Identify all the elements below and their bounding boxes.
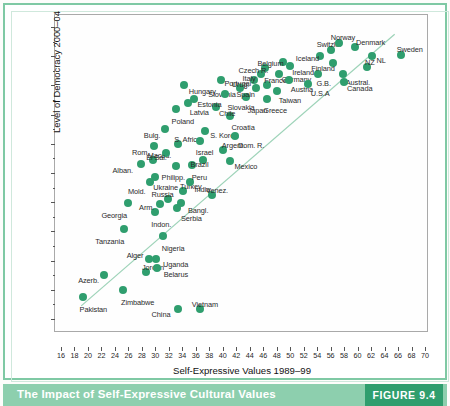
- data-point: [263, 95, 271, 103]
- y-tick-mark-minor: [53, 188, 56, 189]
- y-tick-mark-minor: [53, 158, 56, 159]
- x-tick-label: 48: [273, 351, 281, 360]
- x-tick-label: 28: [138, 351, 146, 360]
- data-point-label: Serbia: [181, 215, 202, 223]
- x-tick-mark: [88, 347, 89, 351]
- data-point-label: Alban.: [113, 167, 133, 175]
- data-point-label: Canada: [347, 85, 372, 93]
- x-tick-mark: [358, 347, 359, 351]
- data-point-label: Uganda: [163, 261, 188, 269]
- data-point-label: India: [194, 186, 210, 194]
- data-point: [100, 271, 108, 279]
- x-tick-mark: [128, 347, 129, 351]
- x-tick-mark: [115, 347, 116, 351]
- data-point-label: Bangl.: [188, 207, 208, 215]
- x-tick-label: 64: [381, 351, 389, 360]
- x-tick-label: 46: [259, 351, 267, 360]
- figure-caption: The Impact of Self-Expressive Cultural V…: [17, 388, 276, 400]
- x-tick-mark: [317, 347, 318, 351]
- x-tick-mark: [182, 347, 183, 351]
- data-point-label: Zimbabwe: [121, 299, 154, 307]
- data-point: [226, 157, 234, 165]
- x-tick-mark: [425, 347, 426, 351]
- x-tick-mark: [250, 347, 251, 351]
- data-point-label: Belarus: [164, 271, 188, 279]
- data-point-label: Azerb.: [78, 277, 99, 285]
- x-tick-label: 68: [408, 351, 416, 360]
- x-tick-label: 50: [286, 351, 294, 360]
- data-point-label: Philipp.: [162, 174, 185, 182]
- data-point-label: Mold.: [128, 188, 146, 196]
- data-point-label: G.B.: [316, 80, 330, 88]
- data-point-label: Norway: [331, 34, 355, 42]
- x-tick-label: 38: [205, 351, 213, 360]
- data-point-label: Dom. R.: [238, 142, 264, 150]
- figure-number: FIGURE 9.4: [365, 389, 443, 401]
- data-point-label: Croatia: [232, 124, 255, 132]
- x-tick-label: 58: [340, 351, 348, 360]
- data-point: [304, 80, 312, 88]
- y-axis-label: Level of Democracy 2000–04: [51, 11, 62, 133]
- data-point-label: Bulg.: [144, 132, 160, 140]
- x-tick-mark: [398, 347, 399, 351]
- data-point-label: Arm.: [139, 204, 154, 212]
- y-tick-mark-minor: [53, 304, 56, 305]
- x-tick-label: 66: [394, 351, 402, 360]
- data-point: [79, 293, 87, 301]
- x-tick-mark: [142, 347, 143, 351]
- caption-band: The Impact of Self-Expressive Cultural V…: [3, 384, 447, 406]
- x-tick-mark: [344, 347, 345, 351]
- x-tick-mark: [263, 347, 264, 351]
- data-point: [285, 76, 293, 84]
- x-tick-label: 22: [97, 351, 105, 360]
- x-tick-label: 16: [57, 351, 65, 360]
- data-point-label: Pakistan: [80, 306, 108, 314]
- data-point: [172, 105, 180, 113]
- x-tick-label: 18: [70, 351, 78, 360]
- x-tick-mark: [101, 347, 102, 351]
- data-point: [174, 305, 182, 313]
- data-point-label: Russia: [152, 191, 174, 199]
- y-tick-mark: [51, 173, 55, 174]
- x-tick-label: 70: [421, 351, 429, 360]
- data-point-label: Ukraine: [153, 184, 178, 192]
- scatter-plot-area: PakistanZimbabweChinaVietnamAzerb.Jordan…: [54, 14, 428, 332]
- data-point-label: Mexico: [235, 163, 258, 171]
- x-tick-mark: [304, 347, 305, 351]
- data-point-label: Iceland: [296, 55, 319, 63]
- data-point: [145, 255, 153, 263]
- data-point-label: Estonia: [197, 101, 221, 109]
- data-point: [339, 70, 347, 78]
- x-tick-mark: [236, 347, 237, 351]
- data-point: [196, 137, 204, 145]
- data-point: [159, 232, 167, 240]
- x-tick-label: 52: [300, 351, 308, 360]
- data-point-label: NL: [376, 57, 385, 65]
- data-point: [177, 199, 185, 207]
- x-tick-label: 56: [327, 351, 335, 360]
- data-point-label: Poland: [172, 118, 194, 126]
- data-point: [231, 132, 239, 140]
- data-point-label: Rom.: [132, 149, 149, 157]
- data-point-label: Finland: [311, 65, 335, 73]
- y-tick-mark: [51, 319, 55, 320]
- x-tick-label: 40: [219, 351, 227, 360]
- data-point: [201, 127, 209, 135]
- y-tick-mark-minor: [53, 217, 56, 218]
- data-point: [124, 199, 132, 207]
- data-point: [273, 87, 281, 95]
- data-point-label: Spain: [236, 91, 254, 99]
- data-point: [151, 173, 159, 181]
- x-tick-mark: [412, 347, 413, 351]
- x-tick-mark: [209, 347, 210, 351]
- data-point: [152, 255, 160, 263]
- data-point-label: Vietnam: [192, 301, 218, 309]
- x-tick-label: 32: [165, 351, 173, 360]
- data-point: [137, 160, 145, 168]
- x-tick-mark: [74, 347, 75, 351]
- x-tick-mark: [385, 347, 386, 351]
- y-tick-mark-minor: [53, 246, 56, 247]
- data-point-label: China: [152, 311, 171, 319]
- data-point-label: Tanzania: [95, 238, 124, 246]
- data-point: [180, 81, 188, 89]
